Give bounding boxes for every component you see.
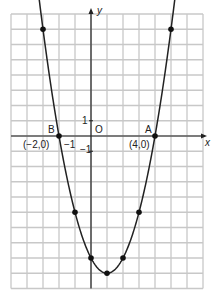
x-axis-label: x — [204, 137, 211, 148]
point-b-coord: (−2,0) — [23, 139, 49, 150]
data-point — [120, 255, 126, 261]
point-b-label: B — [48, 124, 55, 135]
grid — [11, 14, 203, 289]
data-point — [40, 26, 46, 32]
point-a-coord: (4,0) — [129, 139, 150, 150]
graph-figure: y x O 1 −1 −1 B (−2,0) A (4,0) — [0, 0, 218, 300]
data-point — [72, 209, 78, 215]
data-point — [136, 209, 142, 215]
data-point — [168, 26, 174, 32]
tick-y-neg1: −1 — [80, 144, 92, 155]
tick-y-1: 1 — [82, 115, 88, 126]
data-point — [152, 133, 158, 139]
y-axis-label: y — [96, 5, 103, 16]
y-axis-arrow-icon — [89, 8, 94, 14]
data-point — [88, 255, 94, 261]
tick-x-neg1: −1 — [64, 139, 76, 150]
data-point — [104, 270, 110, 276]
origin-label: O — [95, 124, 103, 135]
parabola-chart: y x O 1 −1 −1 B (−2,0) A (4,0) — [0, 0, 218, 300]
point-a-label: A — [145, 124, 152, 135]
data-point — [56, 133, 62, 139]
